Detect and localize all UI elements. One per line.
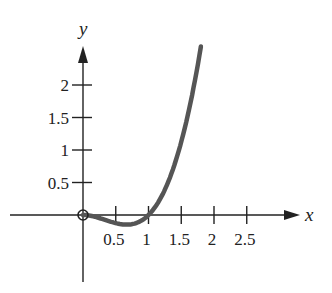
x-tick-label: 2.5 <box>234 230 255 249</box>
x-tick-label: 1 <box>142 230 151 249</box>
y-tick-label: 1 <box>61 141 70 160</box>
y-axis-label: y <box>77 18 88 39</box>
axes <box>10 46 300 282</box>
x-ticks: 0.511.522.5 <box>103 206 255 249</box>
x-tick-label: 1.5 <box>169 230 190 249</box>
x-axis-arrow-icon <box>284 210 300 220</box>
x-tick-label: 0.5 <box>103 230 124 249</box>
y-tick-label: 0.5 <box>48 174 69 193</box>
x-tick-label: 2 <box>208 230 217 249</box>
y-tick-label: 2 <box>61 76 70 95</box>
y-axis-arrow-icon <box>78 46 88 63</box>
y-ticks: 0.511.52 <box>48 76 92 193</box>
function-curve <box>83 47 201 225</box>
x-axis-label: x <box>304 204 314 225</box>
y-tick-label: 1.5 <box>48 109 69 128</box>
chart-canvas: 0.511.522.5 0.511.52 x y <box>0 0 332 293</box>
